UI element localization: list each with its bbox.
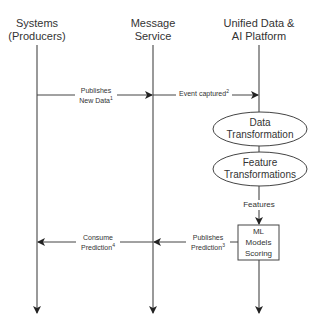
label-consume-prediction: Consume Prediction4 xyxy=(76,233,120,253)
label-event-captured: Event captured2 xyxy=(176,89,232,99)
node-data-transformation: Data Transformation xyxy=(213,117,307,141)
node-feature-transformations: Feature Transformations xyxy=(211,157,309,181)
label-publishes-new-data: Publishes New Data1 xyxy=(75,86,117,106)
node-ml-scoring: ML Models Scoring xyxy=(238,226,279,259)
label-features: Features xyxy=(238,200,280,210)
lane-title-platform: Unified Data & AI Platform xyxy=(209,17,309,43)
lane-title-message: Message Service xyxy=(113,17,193,43)
label-publishes-prediction: Publishes Prediction3 xyxy=(186,233,230,253)
lane-title-producers: Systems (Producers) xyxy=(0,17,74,43)
